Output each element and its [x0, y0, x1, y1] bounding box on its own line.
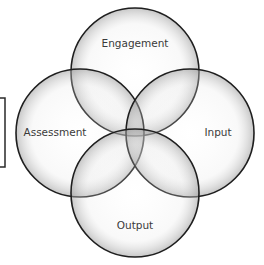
label-assessment: Assessment	[24, 126, 87, 138]
label-engagement: Engagement	[102, 37, 169, 49]
venn-diagram: Engagement Assessment Input Output	[0, 0, 264, 265]
label-output: Output	[117, 219, 153, 231]
left-bracket	[0, 98, 5, 167]
label-input: Input	[204, 126, 231, 138]
circle-output	[71, 129, 199, 257]
